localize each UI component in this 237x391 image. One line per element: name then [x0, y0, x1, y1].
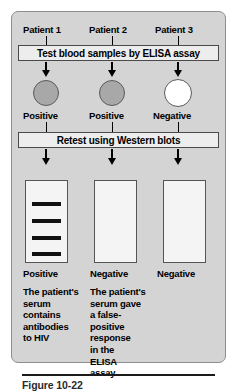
arrow-head-elisa-1 — [42, 70, 50, 77]
blot-band — [32, 219, 61, 223]
arrow-head-blot-3 — [174, 158, 182, 165]
arrow-head-elisa-2 — [108, 70, 116, 77]
step-banner-western-blot: Retest using Western blots — [18, 132, 219, 148]
conclusion-line: to HIV — [23, 332, 79, 344]
conclusion-line: assay — [90, 367, 146, 379]
conclusion-text-2: The patient's serum gave a false- positi… — [90, 286, 146, 379]
sample-circle-patient-1 — [33, 80, 59, 106]
elisa-result-2: Positive — [89, 110, 124, 121]
arrow-head-blot-2 — [108, 158, 116, 165]
elisa-result-1: Positive — [23, 110, 58, 121]
connector-patient-1-to-elisa — [46, 36, 47, 45]
conclusion-line: in the — [90, 344, 146, 356]
figure-caption: Figure 10-22 — [22, 379, 222, 391]
conclusion-line: response — [90, 332, 146, 344]
conclusion-line: serum gave — [90, 298, 146, 310]
connector-result-1-to-retest — [46, 122, 47, 132]
sample-circle-patient-3 — [164, 79, 192, 107]
caption-rule — [22, 374, 215, 376]
conclusion-line: serum — [23, 298, 79, 310]
conclusion-line: The patient's — [90, 286, 146, 298]
patient-label-3: Patient 3 — [155, 24, 193, 35]
conclusion-line: contains — [23, 309, 79, 321]
arrow-head-elisa-3 — [174, 70, 182, 77]
conclusion-line: ELISA — [90, 356, 146, 368]
conclusion-line: positive — [90, 321, 146, 333]
conclusion-line: The patient's — [23, 286, 79, 298]
conclusion-text-1: The patient's serum contains antibodies … — [23, 286, 79, 344]
step-banner-elisa-label: Test blood samples by ELISA assay — [19, 46, 218, 60]
conclusion-line: antibodies — [23, 321, 79, 333]
western-blot-lane-3 — [163, 180, 206, 263]
connector-result-2-to-retest — [112, 122, 113, 132]
sample-circle-patient-2 — [99, 80, 125, 106]
elisa-result-3: Negative — [153, 110, 191, 121]
blot-result-1: Positive — [23, 268, 58, 279]
western-blot-lane-2 — [94, 180, 137, 263]
blot-band — [32, 202, 61, 206]
step-banner-western-blot-label: Retest using Western blots — [19, 133, 218, 147]
western-blot-lane-1 — [25, 180, 68, 263]
arrow-head-blot-1 — [42, 158, 50, 165]
connector-result-3-to-retest — [178, 122, 179, 132]
conclusion-line: a false- — [90, 309, 146, 321]
blot-result-2: Negative — [90, 268, 128, 279]
blot-result-3: Negative — [157, 268, 195, 279]
connector-patient-3-to-elisa — [178, 36, 179, 45]
step-banner-elisa: Test blood samples by ELISA assay — [18, 45, 219, 61]
patient-label-2: Patient 2 — [89, 24, 127, 35]
blot-band — [32, 236, 61, 240]
connector-patient-2-to-elisa — [112, 36, 113, 45]
blot-band — [32, 252, 61, 256]
patient-label-1: Patient 1 — [23, 24, 61, 35]
